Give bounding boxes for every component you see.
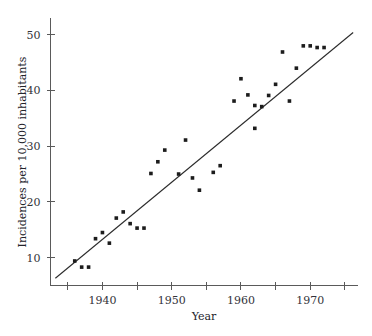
data-point: [184, 138, 188, 142]
regression-line: [55, 32, 353, 278]
x-axis: [50, 282, 358, 290]
data-point: [246, 93, 250, 97]
data-point: [322, 46, 326, 50]
y-tick-label: 10: [27, 252, 41, 265]
data-point: [80, 265, 84, 269]
data-point: [267, 94, 271, 98]
plot-canvas: 1020304050 1940195019601970 Year Inciden…: [0, 0, 372, 336]
data-point: [239, 77, 243, 81]
data-point: [121, 210, 125, 214]
data-point: [288, 99, 292, 103]
data-point: [198, 188, 202, 192]
data-point: [101, 231, 105, 235]
x-axis-title: Year: [191, 310, 217, 323]
x-tick-label: 1940: [88, 294, 116, 307]
data-point: [142, 226, 146, 230]
data-point: [218, 164, 222, 168]
data-point: [253, 104, 257, 108]
data-point: [301, 44, 305, 48]
data-point: [232, 99, 236, 103]
data-point: [87, 265, 91, 269]
data-point-group: [73, 44, 326, 269]
data-point: [260, 105, 264, 109]
data-point: [315, 46, 319, 50]
data-point: [114, 216, 118, 220]
data-point: [281, 50, 285, 54]
data-point: [274, 83, 278, 87]
data-point: [156, 160, 160, 164]
data-point: [108, 241, 112, 245]
data-point: [149, 172, 153, 176]
data-point: [135, 226, 139, 230]
data-point: [128, 222, 132, 226]
y-axis: [47, 18, 55, 286]
x-tick-label: 1970: [296, 294, 324, 307]
data-point: [211, 171, 215, 175]
data-point: [308, 44, 312, 48]
data-point: [163, 148, 167, 152]
data-point: [253, 127, 257, 131]
data-point: [191, 176, 195, 180]
scatter-plot-figure: 1020304050 1940195019601970 Year Inciden…: [0, 0, 372, 336]
data-point: [295, 66, 299, 70]
data-point: [94, 237, 98, 241]
y-tick-label: 50: [27, 29, 41, 42]
data-point: [73, 259, 77, 263]
x-tick-label: 1950: [158, 294, 186, 307]
x-tick-label: 1960: [227, 294, 255, 307]
data-point: [177, 172, 181, 176]
y-axis-title: Incidences per 10,000 inhabitants: [16, 56, 29, 247]
x-tick-label-group: 1940195019601970: [88, 294, 324, 307]
